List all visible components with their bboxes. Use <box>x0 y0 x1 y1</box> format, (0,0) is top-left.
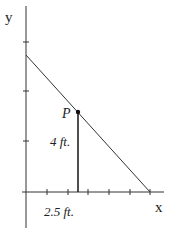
point-p-label: P <box>61 106 71 121</box>
y-axis-label: y <box>5 9 13 25</box>
x-axis-label: x <box>155 199 163 215</box>
distance-label: 2.5 ft. <box>44 204 74 219</box>
height-label: 4 ft. <box>50 134 70 149</box>
diagonal-line <box>26 55 150 192</box>
point-p <box>76 110 80 114</box>
diagram-canvas: y x P 4 ft. 2.5 ft. <box>0 0 174 232</box>
